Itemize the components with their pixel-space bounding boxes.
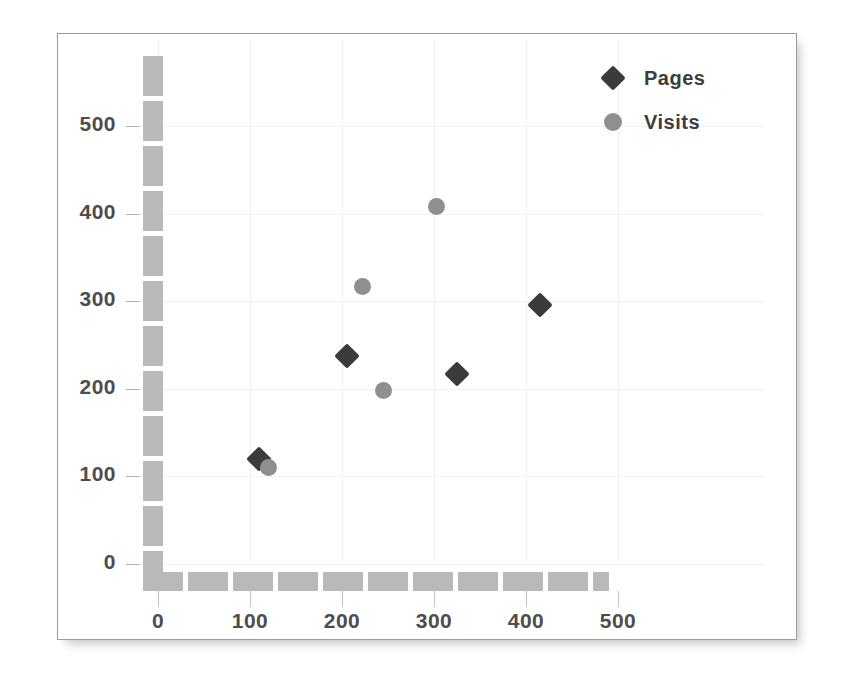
y-tick-label-100: 100 (56, 462, 116, 486)
diamond-marker-icon (600, 65, 625, 90)
x-tick-label-0: 0 (123, 609, 193, 633)
data-point-pages (444, 361, 469, 386)
x-tick-mark-100 (250, 591, 251, 607)
y-tick-mark-300 (126, 301, 140, 302)
gridline-horizontal-400 (140, 214, 765, 215)
data-point-visits (428, 198, 445, 215)
chart-card: 0100200300400500 0100200300400500 PagesV… (57, 33, 797, 640)
gridline-vertical-400 (526, 40, 527, 565)
data-point-visits (354, 278, 371, 295)
x-axis-bar (143, 572, 609, 591)
circle-marker-icon (604, 113, 622, 131)
legend-item-pages[interactable]: Pages (604, 56, 754, 100)
legend-label-visits: Visits (644, 111, 700, 134)
chart-legend: PagesVisits (604, 56, 754, 144)
legend-label-pages: Pages (644, 67, 705, 90)
x-tick-label-300: 300 (399, 609, 469, 633)
x-tick-label-200: 200 (307, 609, 377, 633)
x-tick-label-400: 400 (491, 609, 561, 633)
data-point-visits (375, 382, 392, 399)
y-tick-mark-400 (126, 214, 140, 215)
x-tick-mark-400 (526, 591, 527, 607)
gridline-vertical-200 (342, 40, 343, 565)
y-tick-label-500: 500 (56, 112, 116, 136)
gridline-horizontal-200 (140, 389, 765, 390)
y-tick-label-300: 300 (56, 287, 116, 311)
x-tick-label-500: 500 (583, 609, 653, 633)
legend-item-visits[interactable]: Visits (604, 100, 754, 144)
gridline-vertical-300 (434, 40, 435, 565)
y-tick-mark-100 (126, 476, 140, 477)
x-tick-mark-0 (158, 591, 159, 607)
scatter-plot-area: 0100200300400500 0100200300400500 PagesV… (58, 34, 798, 641)
x-tick-mark-200 (342, 591, 343, 607)
y-tick-label-200: 200 (56, 375, 116, 399)
y-tick-label-0: 0 (56, 550, 116, 574)
y-axis-bar (143, 56, 163, 572)
x-tick-label-100: 100 (215, 609, 285, 633)
y-tick-mark-0 (126, 564, 140, 565)
y-tick-mark-500 (126, 126, 140, 127)
x-tick-mark-500 (618, 591, 619, 607)
data-point-pages (527, 292, 552, 317)
gridline-vertical-100 (250, 40, 251, 565)
gridline-horizontal-0 (140, 564, 765, 565)
data-point-visits (260, 459, 277, 476)
gridline-horizontal-100 (140, 476, 765, 477)
gridline-horizontal-300 (140, 301, 765, 302)
y-tick-label-400: 400 (56, 200, 116, 224)
y-tick-mark-200 (126, 389, 140, 390)
x-tick-mark-300 (434, 591, 435, 607)
data-point-pages (334, 343, 359, 368)
